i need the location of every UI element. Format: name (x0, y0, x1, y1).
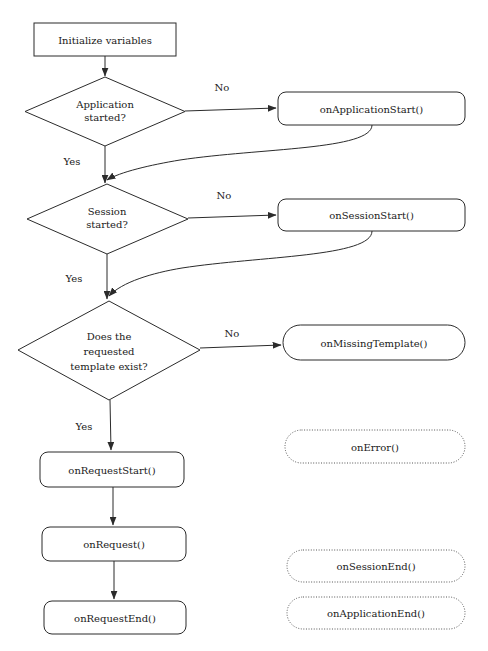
template-exists-label-line-3: template exist? (70, 361, 147, 372)
edge-label-yes-template: Yes (75, 421, 93, 432)
on-application-start-label: onApplicationStart() (320, 104, 424, 115)
edge-on-application-start-return (107, 125, 372, 180)
edge-label-no-session: No (217, 190, 232, 201)
node-on-application-start[interactable]: onApplicationStart() (278, 92, 465, 125)
on-error-label: onError() (351, 442, 399, 453)
on-session-end-label: onSessionEnd() (336, 561, 415, 572)
flowchart-svg: No Yes No Yes No Yes Initialize variable… (0, 0, 488, 651)
on-request-end-label: onRequestEnd() (74, 613, 156, 624)
node-on-error[interactable]: onError() (285, 430, 465, 463)
session-started-label-line-1: Session (88, 206, 127, 217)
node-on-session-end[interactable]: onSessionEnd() (287, 550, 465, 582)
node-template-exists[interactable]: Does the requested template exist? (18, 301, 200, 400)
node-session-started[interactable]: Session started? (27, 184, 188, 254)
edge-app-no-to-on-application-start (185, 108, 276, 111)
node-initialize-variables[interactable]: Initialize variables (34, 23, 176, 56)
edge-label-yes-session: Yes (65, 273, 83, 284)
flowchart-canvas: No Yes No Yes No Yes Initialize variable… (0, 0, 488, 651)
edge-on-session-start-return (109, 231, 372, 296)
edge-label-no-template: No (225, 328, 240, 339)
on-request-start-label: onRequestStart() (68, 465, 155, 476)
node-on-missing-template[interactable]: onMissingTemplate() (283, 325, 465, 360)
on-request-label: onRequest() (83, 539, 145, 550)
session-started-label-line-2: started? (86, 219, 128, 230)
edge-label-no-application: No (215, 82, 230, 93)
edge-template-no-to-on-missing-template (200, 345, 281, 348)
node-application-started[interactable]: Application started? (25, 77, 185, 146)
node-on-request-start[interactable]: onRequestStart() (40, 452, 184, 487)
node-on-session-start[interactable]: onSessionStart() (278, 199, 465, 231)
node-on-request[interactable]: onRequest() (42, 527, 186, 561)
edge-label-yes-application: Yes (63, 156, 81, 167)
initialize-variables-label: Initialize variables (58, 35, 152, 46)
node-on-request-end[interactable]: onRequestEnd() (44, 601, 186, 634)
application-started-label-line-1: Application (75, 99, 134, 110)
template-exists-label-line-1: Does the (87, 331, 132, 342)
on-missing-template-label: onMissingTemplate() (321, 338, 428, 349)
on-application-end-label: onApplicationEnd() (327, 608, 425, 619)
edge-session-no-to-on-session-start (188, 215, 276, 218)
edge-template-yes-to-on-request-start (110, 400, 111, 450)
template-exists-label-line-2: requested (84, 346, 136, 357)
application-started-label-line-2: started? (84, 112, 126, 123)
on-session-start-label: onSessionStart() (329, 210, 414, 221)
node-on-application-end[interactable]: onApplicationEnd() (287, 597, 465, 629)
